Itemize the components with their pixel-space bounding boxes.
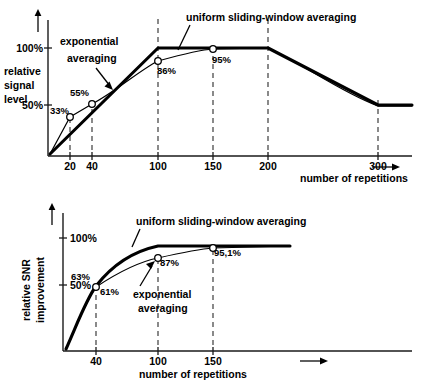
figure-container: 100% 50% relative signal level 20 40 100…: [0, 0, 422, 384]
annotation-exponential-2-line2: averaging: [138, 302, 188, 314]
data-point-95: [210, 46, 217, 53]
y-tick-label-100-2: 100%: [70, 232, 98, 244]
y-axis-label-2-line1: relative SNR: [20, 259, 32, 321]
x-tick-label-40-2: 40: [90, 355, 102, 367]
data-point-86: [155, 58, 162, 65]
chart-relative-signal-level: 100% 50% relative signal level 20 40 100…: [4, 9, 412, 184]
data-label-95: 95%: [212, 54, 232, 65]
leader-line-uniform: [178, 25, 190, 50]
data-label-87: 87%: [160, 257, 180, 268]
x-axis-label: number of repetitions: [300, 172, 408, 184]
leader-arrow-exponential: [105, 82, 114, 91]
annotation-exponential-averaging: exponential averaging: [60, 35, 118, 90]
data-label-86: 86%: [157, 65, 177, 76]
y-axis-label-line3: level: [4, 93, 27, 105]
x-axis-arrow-icon-2: [300, 357, 328, 364]
data-label-95-1: 95,1%: [214, 247, 241, 258]
data-label-55: 55%: [70, 87, 90, 98]
data-label-61: 61%: [100, 286, 120, 297]
data-label-33: 33%: [50, 105, 70, 116]
x-axis-label-2: number of repetitions: [139, 368, 247, 380]
data-point-55: [89, 101, 96, 108]
data-label-63: 63%: [71, 271, 91, 282]
x-tick-label-150: 150: [204, 160, 222, 172]
x-tick-label-20: 20: [64, 160, 76, 172]
leader-line-exponential-2: [140, 266, 152, 286]
data-point-63-61: [93, 284, 100, 291]
annotation-uniform-sliding-window-2: uniform sliding-window averaging: [136, 215, 306, 227]
y-axis-arrow-icon-2: [49, 203, 56, 225]
annotation-exponential-2-line1: exponential: [133, 288, 191, 300]
annotation-exponential-line1: exponential: [60, 35, 118, 47]
x-tick-label-200: 200: [259, 160, 277, 172]
y-axis-label-line1: relative: [4, 65, 41, 77]
x-tick-label-40: 40: [86, 160, 98, 172]
x-tick-label-100: 100: [149, 160, 167, 172]
y-tick-label-100: 100%: [16, 42, 44, 54]
x-tick-label-300: 300: [369, 160, 387, 172]
x-tick-label-150-2: 150: [204, 355, 222, 367]
annotation-exponential-averaging-2: exponential averaging: [133, 261, 191, 314]
two-panel-chart: 100% 50% relative signal level 20 40 100…: [0, 0, 422, 384]
annotation-exponential-line2: averaging: [67, 52, 117, 64]
y-axis-arrow-icon: [35, 9, 42, 32]
annotation-uniform-sliding-window: uniform sliding-window averaging: [186, 11, 356, 23]
leader-arrow-exponential-2: [146, 261, 155, 269]
y-axis-label-2-line2: improvement: [34, 257, 46, 323]
y-axis-label-line2: signal: [4, 79, 34, 91]
leader-line-uniform-2: [132, 229, 140, 247]
x-tick-label-100-2: 100: [149, 355, 167, 367]
chart-relative-snr-improvement: 100% 50% relative SNR improvement 40 100…: [20, 203, 412, 380]
